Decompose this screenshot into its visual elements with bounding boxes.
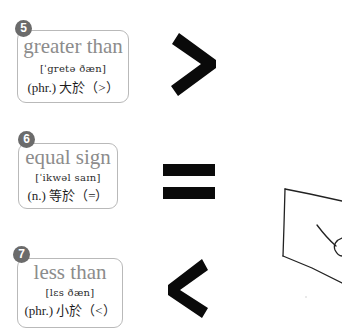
paper-speck xyxy=(305,296,307,298)
less-than-symbol-icon xyxy=(168,259,208,318)
greater-than-symbol-icon xyxy=(171,33,216,96)
equal-bar-top xyxy=(163,164,215,176)
hand-drawn-sketch xyxy=(283,189,342,283)
equal-sign-symbol-icon xyxy=(163,164,215,199)
equal-bar-bottom xyxy=(163,187,215,199)
